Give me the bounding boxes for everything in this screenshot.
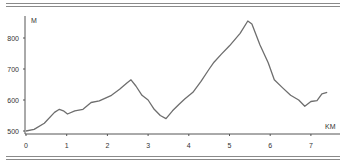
- y-axis-label: M: [31, 17, 37, 24]
- y-tick-label: 800: [7, 35, 19, 42]
- x-tick-label: 5: [228, 142, 232, 149]
- y-tick-label: 600: [7, 97, 19, 104]
- y-tick-label: 500: [7, 128, 19, 135]
- axes: 50060070080001234567: [7, 16, 340, 149]
- elevation-chart: 50060070080001234567 M KM: [0, 0, 347, 166]
- bottom-border-line-2: [6, 159, 340, 160]
- x-tick-label: 6: [268, 142, 272, 149]
- x-tick-label: 2: [105, 142, 109, 149]
- x-tick-label: 4: [187, 142, 191, 149]
- x-tick-label: 3: [146, 142, 150, 149]
- elevation-profile-line: [26, 21, 327, 131]
- x-axis-label: KM: [325, 123, 336, 130]
- y-tick-label: 700: [7, 66, 19, 73]
- bottom-border-line-1: [6, 156, 340, 157]
- x-tick-label: 0: [24, 142, 28, 149]
- x-tick-label: 7: [309, 142, 313, 149]
- x-tick-label: 1: [65, 142, 69, 149]
